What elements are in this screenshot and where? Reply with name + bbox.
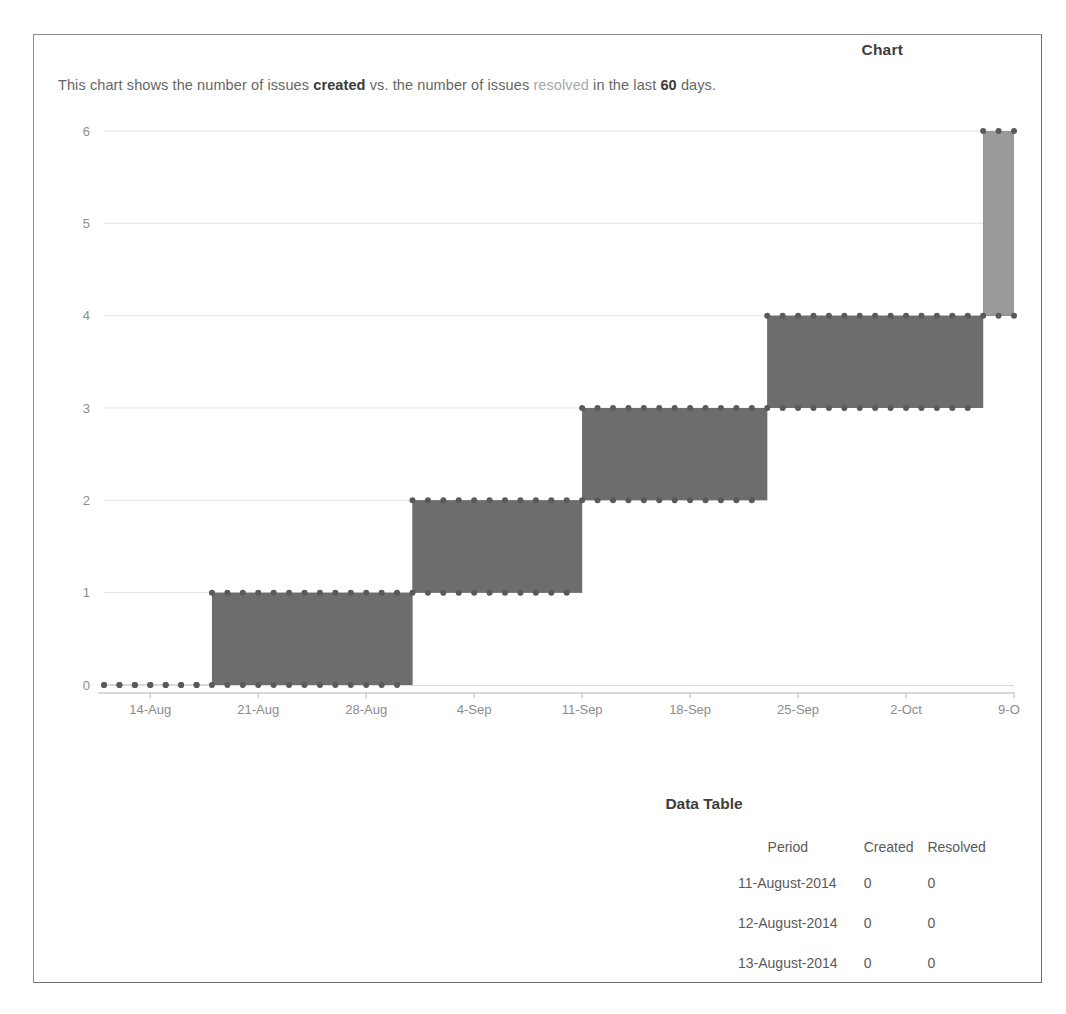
y-axis-tick-label: 4	[83, 308, 90, 323]
created-data-point-marker	[918, 313, 924, 319]
y-axis-tick-label: 5	[83, 216, 90, 231]
cell-created: 0	[864, 903, 928, 943]
resolved-data-point-marker	[363, 682, 369, 688]
created-data-point-marker	[379, 590, 385, 596]
resolved-data-point-marker	[487, 590, 493, 596]
resolved-data-point-marker	[780, 405, 786, 411]
created-data-point-marker	[271, 590, 277, 596]
created-data-point-marker	[949, 313, 955, 319]
resolved-data-point-marker	[456, 590, 462, 596]
resolved-data-point-marker	[440, 590, 446, 596]
resolved-data-point-marker	[379, 682, 385, 688]
created-data-point-marker	[548, 497, 554, 503]
resolved-data-point-marker	[286, 682, 292, 688]
description-suffix: days.	[677, 77, 716, 93]
issues-created-vs-resolved-chart[interactable]: 0123456 14-Aug21-Aug28-Aug4-Sep11-Sep18-…	[58, 117, 1020, 737]
resolved-data-point-marker	[718, 497, 724, 503]
x-axis-tick-label: 28-Aug	[345, 702, 387, 717]
resolved-data-point-marker	[517, 590, 523, 596]
created-data-point-marker	[641, 405, 647, 411]
y-axis-tick-label: 6	[83, 124, 90, 139]
y-axis-tick-label: 3	[83, 401, 90, 416]
created-data-point-marker	[302, 590, 308, 596]
data-table-section: Data Table Period Created Resolved 11-Au…	[58, 795, 1020, 983]
created-data-point-marker	[317, 590, 323, 596]
resolved-data-point-marker	[471, 590, 477, 596]
resolved-data-point-marker	[101, 682, 107, 688]
resolved-data-point-marker	[764, 405, 770, 411]
created-data-point-marker	[841, 313, 847, 319]
chart-gadget-frame: Chart This chart shows the number of iss…	[33, 34, 1042, 983]
x-axis-tick-label: 4-Sep	[457, 702, 492, 717]
created-data-point-marker	[332, 590, 338, 596]
created-data-point-marker	[255, 590, 261, 596]
created-data-point-marker	[764, 313, 770, 319]
y-axis-tick-label: 0	[83, 678, 90, 693]
created-data-point-marker	[517, 497, 523, 503]
description-resolved-word: resolved	[533, 77, 589, 93]
chart-plot-area[interactable]: 0123456 14-Aug21-Aug28-Aug4-Sep11-Sep18-…	[58, 117, 1020, 737]
resolved-data-point-marker	[949, 405, 955, 411]
created-data-point-marker	[656, 405, 662, 411]
resolved-data-point-marker	[116, 682, 122, 688]
table-row: 13-August-201400	[738, 943, 1000, 983]
created-data-point-marker	[733, 405, 739, 411]
created-data-point-marker	[857, 313, 863, 319]
resolved-data-point-marker	[888, 405, 894, 411]
resolved-data-point-marker	[826, 405, 832, 411]
resolved-data-point-marker	[996, 313, 1002, 319]
created-data-point-marker	[1011, 128, 1017, 134]
resolved-data-point-marker	[903, 405, 909, 411]
created-data-point-marker	[888, 313, 894, 319]
description-suffix-before-days: in the last	[589, 77, 660, 93]
resolved-data-point-marker	[672, 497, 678, 503]
y-axis-labels: 0123456	[83, 124, 90, 693]
data-table-title: Data Table	[388, 795, 1020, 813]
description-middle: vs. the number of issues	[366, 77, 534, 93]
resolved-data-point-marker	[255, 682, 261, 688]
column-header-resolved: Resolved	[927, 831, 999, 863]
resolved-data-point-marker	[271, 682, 277, 688]
resolved-data-point-marker	[548, 590, 554, 596]
cell-created: 0	[864, 863, 928, 903]
created-data-point-marker	[409, 497, 415, 503]
resolved-data-point-marker	[425, 590, 431, 596]
cell-period: 13-August-2014	[738, 943, 864, 983]
created-data-point-marker	[286, 590, 292, 596]
resolved-data-point-marker	[332, 682, 338, 688]
created-overflow-band	[983, 131, 1014, 316]
created-data-point-marker	[826, 313, 832, 319]
resolved-data-point-marker	[965, 405, 971, 411]
description-prefix: This chart shows the number of issues	[58, 77, 313, 93]
x-axis-tick-label: 11-Sep	[562, 702, 603, 717]
created-data-point-marker	[209, 590, 215, 596]
resolved-data-point-marker	[348, 682, 354, 688]
resolved-data-point-marker	[595, 497, 601, 503]
created-data-point-marker	[780, 313, 786, 319]
created-data-point-marker	[810, 313, 816, 319]
resolved-data-point-marker	[409, 590, 415, 596]
resolved-data-point-marker	[841, 405, 847, 411]
data-table-body: 11-August-20140012-August-20140013-Augus…	[738, 863, 1000, 983]
cell-period: 12-August-2014	[738, 903, 864, 943]
created-data-point-marker	[980, 128, 986, 134]
cell-period: 11-August-2014	[738, 863, 864, 903]
created-data-point-marker	[425, 497, 431, 503]
resolved-data-point-marker	[178, 682, 184, 688]
resolved-data-point-marker	[317, 682, 323, 688]
x-axis-tick-label: 2-Oct	[890, 702, 922, 717]
created-data-point-marker	[996, 128, 1002, 134]
resolved-data-point-marker	[579, 497, 585, 503]
resolved-data-point-marker	[641, 497, 647, 503]
resolved-data-point-marker	[533, 590, 539, 596]
created-data-point-marker	[224, 590, 230, 596]
description-days-count: 60	[660, 77, 676, 93]
resolved-data-point-marker	[302, 682, 308, 688]
created-data-point-marker	[579, 405, 585, 411]
created-data-point-marker	[872, 313, 878, 319]
cell-resolved: 0	[927, 943, 999, 983]
resolved-data-point-marker	[240, 682, 246, 688]
resolved-data-point-marker	[872, 405, 878, 411]
table-row: 12-August-201400	[738, 903, 1000, 943]
x-axis-tick-label: 21-Aug	[237, 702, 279, 717]
